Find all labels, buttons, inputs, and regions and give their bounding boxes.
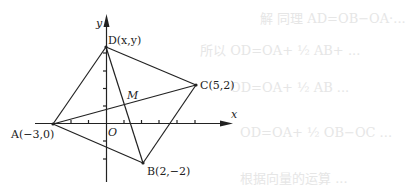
x-axis-label: x: [231, 108, 238, 121]
point-C-label: C(5,2): [200, 79, 235, 92]
point-A-label: A(−3,0): [10, 128, 54, 141]
y-axis-label: y: [95, 17, 103, 30]
segment-AD: [53, 47, 106, 124]
point-B: [141, 161, 144, 164]
point-C: [194, 83, 197, 86]
segment-DB: [106, 47, 143, 163]
x-axis-arrow-icon: [220, 121, 233, 127]
segment-BA: [53, 124, 143, 163]
origin-label: O: [108, 126, 117, 139]
point-D-label: D(x,y): [108, 34, 141, 47]
point-A: [51, 122, 54, 125]
point-M-label: M: [126, 89, 139, 102]
y-axis-arrow-icon: [104, 14, 110, 27]
segment-DC: [106, 47, 196, 85]
point-B-label: B(2,−2): [147, 165, 190, 178]
